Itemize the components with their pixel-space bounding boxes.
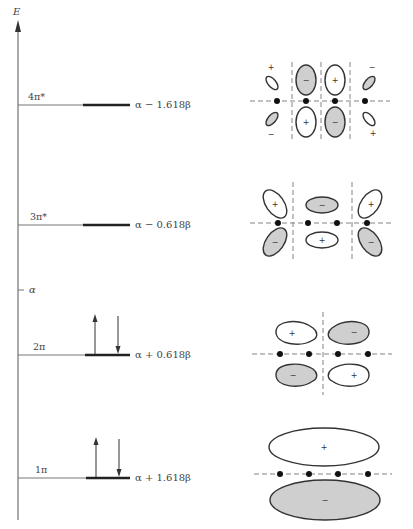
axis-label: E (12, 6, 21, 17)
level-name: 3π* (30, 211, 47, 222)
level-energy: α − 1.618β (135, 99, 191, 110)
svg-text:+: + (272, 200, 279, 209)
carbon-atom (334, 220, 340, 226)
carbon-atom (365, 351, 371, 357)
carbon-atom (305, 220, 311, 226)
level-name: 2π (33, 341, 45, 352)
electron-spin-down-icon (116, 316, 121, 354)
level-energy: α − 0.618β (135, 219, 191, 230)
carbon-atom (303, 98, 309, 104)
svg-text:−: − (368, 238, 375, 247)
orbital-1pi: + − (254, 428, 392, 520)
svg-text:+: + (332, 76, 339, 85)
carbon-atom (335, 471, 341, 477)
level-1pi: 1π α + 1.618β (18, 437, 191, 483)
carbon-atom (332, 98, 338, 104)
electron-spin-down-icon (117, 439, 122, 477)
svg-text:−: − (319, 201, 326, 210)
svg-text:−: − (351, 328, 358, 337)
svg-text:+: + (351, 371, 358, 380)
carbon-atom (277, 471, 283, 477)
svg-text:−: − (369, 63, 376, 72)
svg-text:+: + (319, 236, 326, 245)
carbon-atom (306, 351, 312, 357)
svg-text:−: − (290, 371, 297, 380)
axis-arrow-icon (15, 20, 21, 32)
electron-spin-up-icon (93, 314, 98, 354)
svg-text:−: − (332, 118, 339, 127)
carbon-atom (277, 351, 283, 357)
level-3pi-star: 3π* α − 0.618β (18, 211, 191, 230)
alpha-label: α (29, 284, 36, 295)
orbital-3pi-star: + − − + + − (250, 182, 392, 262)
orbital-2pi: + − − + (252, 312, 392, 395)
carbon-atom (274, 98, 280, 104)
electron-spin-up-icon (94, 437, 99, 477)
svg-text:+: + (303, 118, 310, 127)
carbon-atom (365, 471, 371, 477)
energy-axis: E α (12, 6, 36, 520)
svg-text:+: + (289, 329, 296, 338)
level-energy: α + 1.618β (135, 472, 191, 483)
level-4pi-star: 4π* α − 1.618β (18, 91, 191, 110)
carbon-atom (362, 98, 368, 104)
svg-text:−: − (303, 76, 310, 85)
level-energy: α + 0.618β (135, 349, 191, 360)
svg-text:−: − (322, 496, 329, 505)
svg-text:+: + (368, 200, 375, 209)
svg-text:−: − (272, 238, 279, 247)
level-2pi: 2π α + 0.618β (18, 314, 191, 360)
carbon-atom (306, 471, 312, 477)
svg-text:+: + (370, 129, 377, 138)
svg-text:+: + (321, 443, 328, 452)
level-name: 4π* (28, 91, 45, 102)
svg-text:+: + (268, 63, 275, 72)
carbon-atom (275, 220, 281, 226)
huckel-mo-diagram: E α 4π* α − 1.618β 3π* α − 0.618β 2π α +… (0, 0, 413, 529)
level-name: 1π (35, 464, 47, 475)
svg-text:−: − (268, 130, 275, 139)
carbon-atom (364, 220, 370, 226)
carbon-atom (335, 351, 341, 357)
orbital-4pi-star: + − − + + − − + (250, 62, 390, 142)
